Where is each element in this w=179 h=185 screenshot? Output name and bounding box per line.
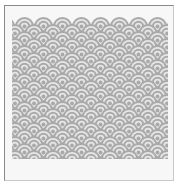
wave-scale-pattern — [0, 0, 179, 185]
